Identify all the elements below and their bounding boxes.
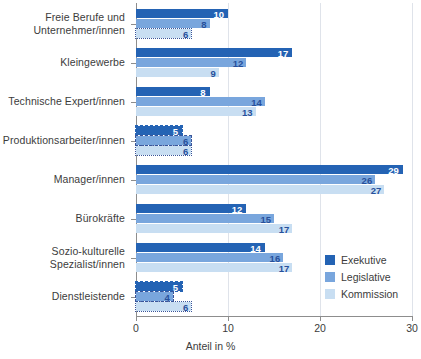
bar-exekutive-4 xyxy=(136,165,403,174)
legend-item-legislative[interactable]: Legislative xyxy=(325,269,417,285)
bar-legislative-4 xyxy=(136,175,375,184)
category-label: Kleingewerbe xyxy=(60,56,125,69)
category-label: Sozio-kulturelle Spezialist/innen xyxy=(50,245,125,270)
bar-legislative-6 xyxy=(136,253,283,262)
bar-legislative-2 xyxy=(136,97,265,106)
category-label: Bürokräfte xyxy=(76,212,125,225)
category-label: Technische Expert/innen xyxy=(8,95,125,108)
x-axis-tick-label: 10 xyxy=(222,322,234,334)
bar-value-label: 4 xyxy=(165,293,170,302)
bar-value-label: 12 xyxy=(232,205,243,214)
chart-legend: ExekutiveLegislativeKommission xyxy=(325,252,417,303)
legend-item-kommission[interactable]: Kommission xyxy=(325,286,417,302)
bar-kommission-6 xyxy=(136,263,292,272)
bar-legislative-5 xyxy=(136,214,274,223)
bar-kommission-2 xyxy=(136,107,256,116)
category-label: Produktionsarbeiter/innen xyxy=(3,134,125,147)
bar-value-label: 17 xyxy=(279,264,290,273)
bar-value-label: 29 xyxy=(388,166,399,175)
category-label: Manager/innen xyxy=(54,173,125,186)
x-axis-tick-label: 20 xyxy=(314,322,326,334)
legend-item-exekutive[interactable]: Exekutive xyxy=(325,252,417,268)
legend-swatch-icon xyxy=(325,289,335,299)
bar-value-label: 6 xyxy=(183,303,188,312)
x-axis-tick xyxy=(228,317,229,321)
bar-value-label: 16 xyxy=(270,254,281,263)
bar-kommission-5 xyxy=(136,224,292,233)
x-axis-tick xyxy=(412,317,413,321)
bar-value-label: 8 xyxy=(200,88,205,97)
bar-kommission-1 xyxy=(136,68,219,77)
bar-value-label: 26 xyxy=(362,176,373,185)
bar-value-label: 6 xyxy=(183,137,188,146)
bar-exekutive-6 xyxy=(136,243,265,252)
bar-kommission-4 xyxy=(136,185,384,194)
bar-value-label: 8 xyxy=(201,20,206,29)
legend-label: Kommission xyxy=(341,288,398,300)
legend-swatch-icon xyxy=(325,272,335,282)
category-label: Freie Berufe und Unternehmer/innen xyxy=(33,11,125,36)
category-axis-labels: Freie Berufe und Unternehmer/innenKleing… xyxy=(0,0,131,313)
bar-value-label: 13 xyxy=(242,108,253,117)
bar-value-label: 5 xyxy=(173,127,178,136)
bar-legislative-1 xyxy=(136,58,246,67)
bar-legislative-0 xyxy=(136,19,210,28)
legend-swatch-icon xyxy=(325,255,335,265)
bar-value-label: 27 xyxy=(371,186,382,195)
bar-exekutive-1 xyxy=(136,48,292,57)
bar-value-label: 10 xyxy=(213,10,224,19)
bar-chart: Freie Berufe und Unternehmer/innenKleing… xyxy=(0,0,421,359)
bar-value-label: 9 xyxy=(211,69,216,78)
bar-value-label: 14 xyxy=(251,98,262,107)
bar-value-label: 15 xyxy=(260,215,271,224)
x-axis-tick xyxy=(136,317,137,321)
bar-exekutive-2 xyxy=(136,87,210,96)
bar-value-label: 14 xyxy=(250,244,261,253)
bar-value-label: 17 xyxy=(278,49,289,58)
legend-label: Exekutive xyxy=(341,254,387,266)
x-axis-tick xyxy=(320,317,321,321)
x-axis-tick-label: 30 xyxy=(406,322,418,334)
legend-label: Legislative xyxy=(341,271,391,283)
x-axis-tick-label: 0 xyxy=(133,322,139,334)
x-axis-line xyxy=(136,316,413,317)
bar-value-label: 5 xyxy=(173,283,178,292)
bar-value-label: 17 xyxy=(279,225,290,234)
bar-value-label: 6 xyxy=(183,147,188,156)
bar-value-label: 12 xyxy=(233,59,244,68)
x-axis-title: Anteil in % xyxy=(0,340,421,352)
x-gridline xyxy=(412,3,413,316)
bar-value-label: 6 xyxy=(183,30,188,39)
bar-exekutive-5 xyxy=(136,204,246,213)
x-gridline xyxy=(320,3,321,316)
category-label: Dienstleistende xyxy=(52,290,125,303)
